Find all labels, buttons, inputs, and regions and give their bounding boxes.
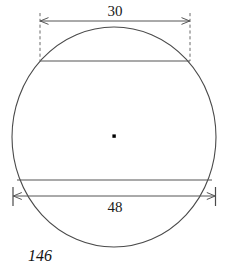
lower-dimension-label: 48	[108, 199, 123, 215]
figure-number-label: 146	[28, 247, 52, 264]
geometry-figure: 30 48 146	[0, 0, 229, 269]
circle-center-dot	[112, 134, 115, 137]
figure-container: 30 48 146	[0, 0, 229, 269]
upper-dimension-label: 30	[108, 3, 123, 19]
